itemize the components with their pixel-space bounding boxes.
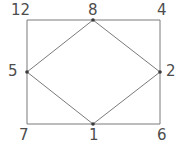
- rectangle-outline: [27, 20, 160, 124]
- graph-figure: 12 8 4 5 2 7 1 6: [0, 0, 186, 152]
- node-label-8: 8: [88, 3, 98, 18]
- vertex-dots: [25, 18, 162, 126]
- node-label-7: 7: [19, 128, 29, 143]
- edge-diamond-lower-left: [27, 72, 93, 124]
- edge-diamond-upper-left: [27, 20, 93, 72]
- edge-diamond-upper-right: [93, 20, 160, 72]
- vertex-dot-2: [158, 70, 162, 74]
- diamond-outline: [27, 20, 160, 124]
- node-label-6: 6: [157, 128, 167, 143]
- node-label-4: 4: [157, 3, 167, 18]
- edge-diamond-lower-right: [93, 72, 160, 124]
- node-label-1: 1: [89, 128, 99, 143]
- node-label-2: 2: [166, 64, 176, 79]
- node-label-12: 12: [11, 3, 30, 18]
- node-label-5: 5: [8, 64, 18, 79]
- vertex-dot-5: [25, 70, 29, 74]
